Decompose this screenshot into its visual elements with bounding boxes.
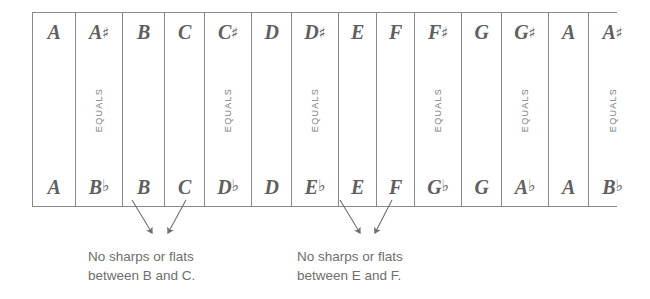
flat-symbol: ♭: [102, 176, 109, 195]
caption-e-and-f: No sharps or flats between E and F.: [297, 247, 403, 285]
caption-e-and-f-line1: No sharps or flats: [297, 247, 403, 266]
note-column: EE: [339, 13, 377, 206]
flat-symbol: ♭: [615, 176, 622, 195]
diagram-canvas: AAA♯EQUALSB♭BBCCC♯EQUALSD♭DDD♯EQUALSE♭EE…: [0, 0, 650, 299]
flat-note-label: A♭: [515, 177, 536, 197]
note-column: GG: [462, 13, 502, 206]
flat-symbol: ♭: [441, 176, 448, 195]
caption-b-and-c-line2: between B and C.: [88, 266, 195, 285]
flat-note-label: A: [47, 177, 60, 197]
sharp-note-label: A: [47, 22, 60, 42]
sharp-note-label: A♯: [602, 22, 622, 42]
sharp-note-label: B: [137, 22, 150, 42]
flat-note-label: B: [137, 177, 150, 197]
note-column: A♯EQUALSB♭: [589, 13, 636, 206]
equals-label: EQUALS: [310, 87, 320, 131]
equals-label: EQUALS: [94, 87, 104, 131]
flat-note-label: A: [562, 177, 575, 197]
flat-note-label: B♭: [602, 177, 623, 197]
sharp-note-label: D: [264, 22, 278, 42]
flat-note-label: D♭: [217, 177, 239, 197]
caption-e-and-f-line2: between E and F.: [297, 266, 403, 285]
sharp-note-label: G♯: [514, 22, 535, 42]
note-column: AA: [549, 13, 589, 206]
equals-label: EQUALS: [223, 87, 233, 131]
flat-note-label: C: [178, 177, 191, 197]
flat-symbol: ♭: [231, 176, 238, 195]
flat-note-label: G: [474, 177, 488, 197]
flat-note-label: E: [351, 177, 364, 197]
note-column: F♯EQUALSG♭: [415, 13, 462, 206]
flat-note-label: E♭: [305, 177, 326, 197]
sharp-note-label: G: [474, 22, 488, 42]
note-equivalence-table: AAA♯EQUALSB♭BBCCC♯EQUALSD♭DDD♯EQUALSE♭EE…: [32, 12, 617, 207]
sharp-symbol: ♯: [441, 24, 448, 42]
caption-b-and-c: No sharps or flats between B and C.: [88, 247, 195, 285]
equals-label: EQUALS: [433, 87, 443, 131]
note-column: FF: [377, 13, 415, 206]
note-column: CC: [165, 13, 205, 206]
note-column: AA: [33, 13, 76, 206]
sharp-symbol: ♯: [529, 24, 536, 42]
note-column: C♯EQUALSD♭: [205, 13, 252, 206]
sharp-note-label: E: [351, 22, 364, 42]
note-column: BB: [123, 13, 165, 206]
flat-note-label: B♭: [89, 177, 110, 197]
sharp-note-label: F: [389, 22, 402, 42]
flat-note-label: F: [389, 177, 402, 197]
sharp-symbol: ♯: [319, 24, 326, 42]
equals-label: EQUALS: [608, 87, 618, 131]
caption-b-and-c-line1: No sharps or flats: [88, 247, 195, 266]
note-column: DD: [252, 13, 292, 206]
sharp-note-label: A♯: [89, 22, 109, 42]
sharp-note-label: C: [178, 22, 191, 42]
sharp-symbol: ♯: [231, 24, 238, 42]
sharp-note-label: A: [562, 22, 575, 42]
flat-note-label: D: [264, 177, 278, 197]
sharp-note-label: F♯: [428, 22, 448, 42]
equals-label: EQUALS: [520, 87, 530, 131]
sharp-symbol: ♯: [616, 24, 623, 42]
note-column: A♯EQUALSB♭: [76, 13, 123, 206]
flat-symbol: ♭: [528, 176, 535, 195]
sharp-symbol: ♯: [102, 24, 109, 42]
sharp-note-label: D♯: [304, 22, 325, 42]
note-column: G♯EQUALSA♭: [502, 13, 549, 206]
flat-symbol: ♭: [318, 176, 325, 195]
sharp-note-label: C♯: [218, 22, 238, 42]
note-column: D♯EQUALSE♭: [292, 13, 339, 206]
flat-note-label: G♭: [427, 177, 449, 197]
